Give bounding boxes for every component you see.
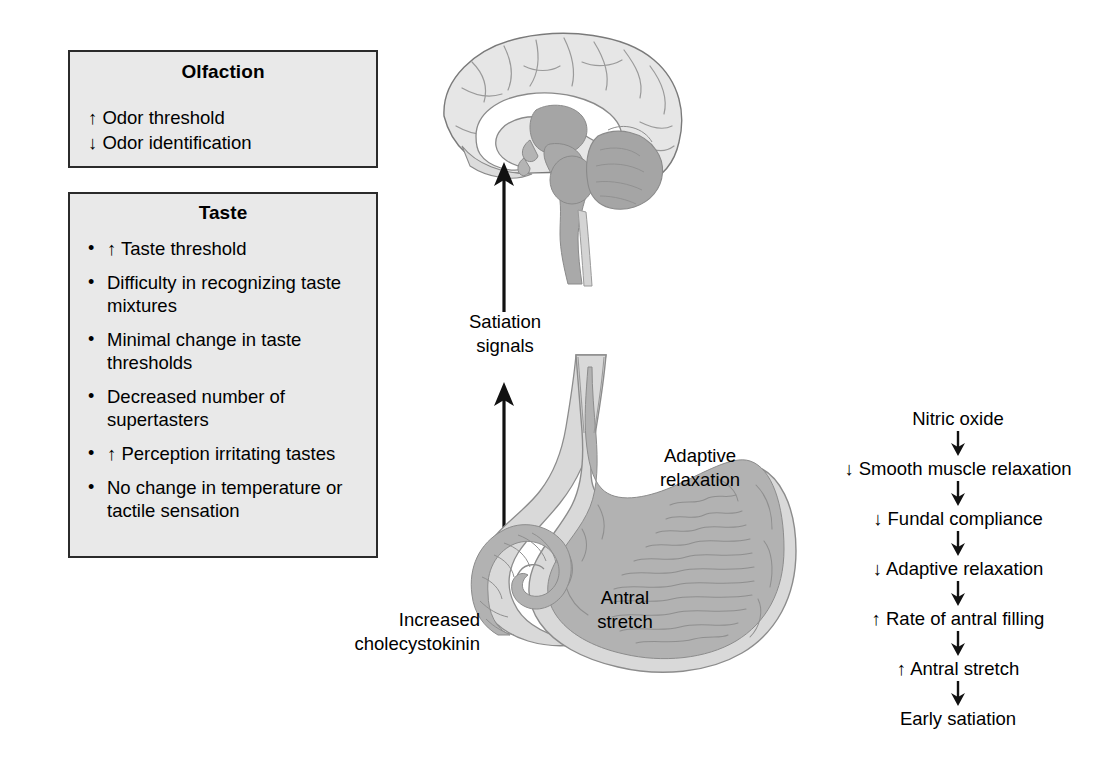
adaptive-relaxation-label: Adaptive relaxation: [640, 444, 760, 492]
taste-item-label: ↑ Perception irritating tastes: [107, 443, 335, 464]
olfaction-info-box: Olfaction ↑ Odor threshold ↓ Odor identi…: [68, 50, 378, 168]
list-item: • Decreased number of supertasters: [85, 385, 368, 431]
list-item: • No change in temperature or tactile se…: [85, 476, 368, 522]
taste-item-label: Decreased number of supertasters: [107, 386, 285, 430]
down-arrow-icon: [949, 431, 967, 457]
nitric-oxide-cascade: Nitric oxide ↓ Smooth muscle relaxation …: [822, 408, 1094, 730]
list-item: • ↑ Perception irritating tastes: [85, 442, 368, 465]
down-arrow-icon: [949, 481, 967, 507]
olfaction-line-1: ↑ Odor threshold: [88, 105, 376, 130]
cascade-step-3: ↓ Fundal compliance: [822, 508, 1094, 530]
bullet-icon: •: [88, 442, 94, 465]
brain-svg: [432, 18, 702, 288]
olfaction-title: Olfaction: [70, 61, 376, 83]
brain-midsagittal-illustration: [432, 18, 702, 288]
stomach-anatomy-illustration: [470, 355, 820, 685]
antral-stretch-label: Antral stretch: [570, 586, 680, 634]
down-arrow-icon: [949, 631, 967, 657]
cascade-step-1: Nitric oxide: [822, 408, 1094, 430]
satiation-arrow-upper: [487, 160, 521, 312]
taste-info-box: Taste • ↑ Taste threshold • Difficulty i…: [68, 192, 378, 558]
satiation-signals-label: Satiation signals: [455, 310, 555, 358]
list-item: • Difficulty in recognizing taste mixtur…: [85, 271, 368, 317]
list-item: • ↑ Taste threshold: [85, 237, 368, 260]
cascade-step-5: ↑ Rate of antral filling: [822, 608, 1094, 630]
taste-item-label: ↑ Taste threshold: [107, 238, 247, 259]
bullet-icon: •: [88, 385, 94, 408]
bullet-icon: •: [88, 476, 94, 499]
cascade-step-2: ↓ Smooth muscle relaxation: [822, 458, 1094, 480]
taste-item-label: No change in temperature or tactile sens…: [107, 477, 343, 521]
taste-title: Taste: [70, 202, 376, 224]
cascade-step-6: ↑ Antral stretch: [822, 658, 1094, 680]
stomach-svg: [470, 355, 820, 685]
taste-item-label: Difficulty in recognizing taste mixtures: [107, 272, 341, 316]
olfaction-line-2: ↓ Odor identification: [88, 130, 376, 155]
down-arrow-icon: [949, 531, 967, 557]
cascade-step-4: ↓ Adaptive relaxation: [822, 558, 1094, 580]
increased-cholecystokinin-label: Increased cholecystokinin: [330, 608, 480, 656]
taste-item-list: • ↑ Taste threshold • Difficulty in reco…: [85, 237, 368, 522]
down-arrow-icon: [949, 681, 967, 707]
cascade-step-7: Early satiation: [822, 708, 1094, 730]
bullet-icon: •: [88, 271, 94, 294]
list-item: • Minimal change in taste thresholds: [85, 328, 368, 374]
taste-item-label: Minimal change in taste thresholds: [107, 329, 301, 373]
bullet-icon: •: [88, 237, 94, 260]
bullet-icon: •: [88, 328, 94, 351]
down-arrow-icon: [949, 581, 967, 607]
